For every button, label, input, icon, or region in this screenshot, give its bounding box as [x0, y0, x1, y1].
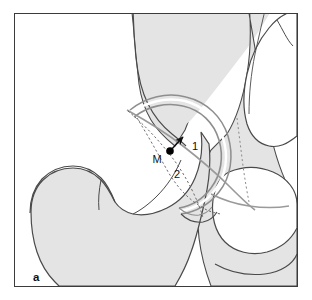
proximal-femur-shape	[31, 132, 210, 286]
label-center-m: M	[152, 153, 161, 165]
panel-letter-label: a	[33, 271, 40, 283]
figure-panel-a: M 1 2 a	[0, 0, 312, 300]
hip-joint-diagram: M 1 2 a	[15, 14, 297, 286]
center-point-marker	[166, 147, 174, 155]
label-measure-two: 2	[174, 168, 180, 180]
label-measure-one: 1	[192, 140, 198, 152]
figure-frame-border: M 1 2 a	[14, 13, 298, 287]
obturator-foramen	[213, 168, 298, 254]
